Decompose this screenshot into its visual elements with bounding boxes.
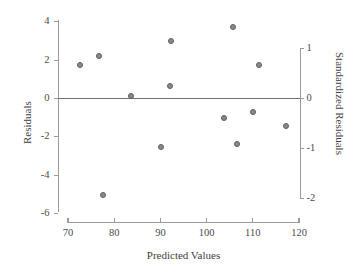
- data-point: [96, 53, 102, 59]
- x-axis-tick-label: 80: [99, 228, 129, 239]
- y-axis-left-tick: [54, 213, 59, 214]
- data-point: [100, 192, 106, 198]
- y-axis-left-tick: [54, 21, 59, 22]
- data-point: [128, 93, 134, 99]
- x-axis-tick: [160, 218, 161, 223]
- y-axis-left-spine: [58, 20, 59, 212]
- y-axis-left-tick: [54, 136, 59, 137]
- data-point: [283, 123, 289, 129]
- x-axis-tick: [67, 218, 68, 223]
- y-axis-left-tick-label: -4: [24, 170, 50, 181]
- y-axis-right-tick: [300, 198, 305, 199]
- x-axis-tick-label: 70: [53, 228, 83, 239]
- x-axis-tick-label: 100: [192, 228, 222, 239]
- y-axis-right-tick: [300, 48, 305, 49]
- data-point: [77, 62, 83, 68]
- x-axis-spine: [68, 222, 299, 223]
- x-axis-tick-label: 110: [238, 228, 268, 239]
- zero-reference-line: [58, 98, 301, 100]
- data-point: [234, 141, 240, 147]
- data-point: [167, 83, 173, 89]
- y-axis-left-tick: [54, 175, 59, 176]
- data-point: [168, 38, 174, 44]
- y-axis-left-title: Residuals: [22, 101, 33, 144]
- data-point: [158, 144, 164, 150]
- y-axis-right-tick-label: -2: [307, 193, 327, 204]
- x-axis-tick: [252, 218, 253, 223]
- y-axis-right-tick: [300, 98, 305, 99]
- y-axis-right-tick-label: -1: [307, 143, 327, 154]
- y-axis-right-tick-label: 0: [307, 93, 327, 104]
- y-axis-left-tick-label: 4: [24, 16, 50, 27]
- y-axis-left-tick: [54, 98, 59, 99]
- data-point: [230, 24, 236, 30]
- x-axis-tick-label: 90: [145, 228, 175, 239]
- x-axis-tick-label: 120: [284, 228, 314, 239]
- y-axis-left-tick: [54, 60, 59, 61]
- y-axis-right-spine: [300, 48, 301, 199]
- x-axis-tick: [298, 218, 299, 223]
- data-point: [221, 115, 227, 121]
- x-axis-tick: [114, 218, 115, 223]
- data-point: [256, 62, 262, 68]
- y-axis-right-title: Standardized Residuals: [334, 52, 345, 155]
- y-axis-left-tick-label: 2: [24, 55, 50, 66]
- x-axis-tick: [206, 218, 207, 223]
- data-point: [250, 109, 256, 115]
- y-axis-right-tick-label: 1: [307, 43, 327, 54]
- y-axis-right-tick: [300, 148, 305, 149]
- residual-scatter-chart: 420-2-4-610-1-2708090100110120 Residuals…: [0, 0, 364, 277]
- x-axis-title: Predicted Values: [136, 250, 232, 261]
- y-axis-left-tick-label: -6: [24, 208, 50, 219]
